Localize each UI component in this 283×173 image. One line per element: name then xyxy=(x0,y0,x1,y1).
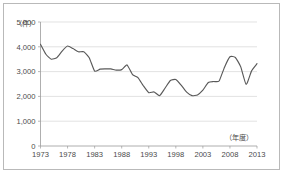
gridlines xyxy=(38,22,257,146)
data-series-line xyxy=(41,44,258,95)
x-axis-unit-label: （年度） xyxy=(225,133,253,142)
y-axis-unit-label: （件） xyxy=(15,19,36,28)
x-tick-label: 1988 xyxy=(113,150,130,159)
x-tick-label: 2013 xyxy=(249,150,266,159)
chart-figure: 01,0002,0003,0004,0005,000 1973197819831… xyxy=(0,0,283,173)
y-tick-label: 1,000 xyxy=(16,117,35,126)
y-axis-tick-labels: 01,0002,0003,0004,0005,000 xyxy=(16,18,35,151)
x-tick-label: 1983 xyxy=(86,150,103,159)
y-tick-label: 4,000 xyxy=(16,43,35,52)
x-tick-label: 2003 xyxy=(194,150,211,159)
y-tick-label: 3,000 xyxy=(16,67,35,76)
y-tick-label: 2,000 xyxy=(16,92,35,101)
x-tick-label: 2008 xyxy=(221,150,238,159)
x-tick-label: 1978 xyxy=(59,150,76,159)
line-chart: 01,0002,0003,0004,0005,000 1973197819831… xyxy=(0,0,283,173)
x-tick-label: 1993 xyxy=(140,150,157,159)
x-tick-label: 1973 xyxy=(32,150,49,159)
x-tick-label: 1998 xyxy=(167,150,184,159)
x-axis-tick-labels: 197319781983198819931998200320082013 xyxy=(32,150,265,159)
